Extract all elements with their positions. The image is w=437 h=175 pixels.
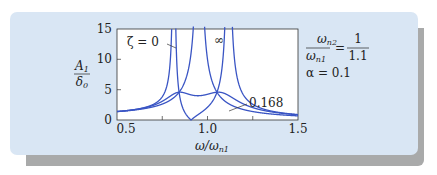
ytick-0: 0 xyxy=(104,113,112,127)
alpha-label: α = 0.1 xyxy=(306,66,351,80)
xtick-0.5: 0.5 xyxy=(116,122,135,136)
zeta-inf-label: ∞ xyxy=(214,33,224,47)
zeta-opt-label: 0.168 xyxy=(249,96,283,110)
svg-text:ωn1: ωn1 xyxy=(306,49,326,64)
svg-text:1.1: 1.1 xyxy=(348,49,367,63)
x-axis-label: ω/ωn1 xyxy=(195,139,229,154)
y-axis-label: A1 δ0 xyxy=(74,59,90,90)
xtick-1.0: 1.0 xyxy=(198,122,217,136)
zeta-zero-label: ζ = 0 xyxy=(127,35,159,49)
chart: 0 5 10 15 0.5 1.0 1.5 A1 δ0 ω/ωn1 ζ = 0 … xyxy=(0,0,437,175)
ytick-10: 10 xyxy=(97,52,112,66)
ytick-5: 5 xyxy=(104,83,112,97)
ytick-15: 15 xyxy=(97,22,112,36)
svg-text:A1: A1 xyxy=(74,59,89,74)
svg-text:δ0: δ0 xyxy=(76,75,88,90)
frequency-ratio: ωn2 ωn1 = 1 1.1 xyxy=(306,32,369,64)
svg-text:1: 1 xyxy=(354,32,362,46)
svg-text:=: = xyxy=(335,41,345,55)
xtick-1.5: 1.5 xyxy=(288,122,307,136)
